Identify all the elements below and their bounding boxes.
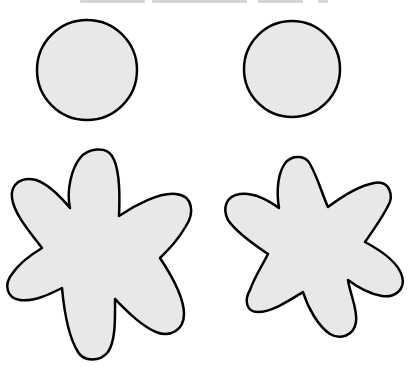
right-flower-shape (225, 157, 402, 337)
shapes-canvas (0, 0, 410, 370)
right-circle-shape (244, 21, 340, 117)
left-circle-shape (37, 20, 137, 120)
left-flower-shape (7, 149, 191, 359)
